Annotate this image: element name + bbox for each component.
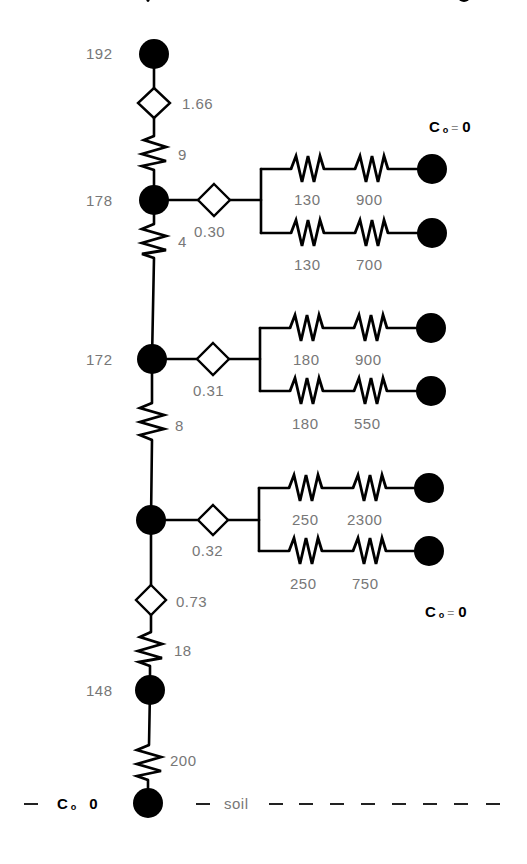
boundary-value: 0 — [462, 118, 470, 135]
boundary-equals: = — [451, 121, 458, 135]
branch-resistor-label: 180 — [293, 352, 320, 367]
node-label: 148 — [86, 683, 113, 698]
node-label: 172 — [86, 352, 113, 367]
resistor-icon — [291, 220, 324, 246]
soil-dash — [361, 803, 375, 805]
branch-resistor-label: 2300 — [347, 512, 382, 527]
soil-dash — [486, 803, 500, 805]
resistor-icon — [142, 136, 166, 170]
boundary-equals: = — [447, 606, 454, 620]
resistor-icon — [289, 475, 322, 501]
branch-resistor-label: 130 — [294, 192, 321, 207]
node-label: 192 — [86, 46, 113, 61]
resistor-icon — [354, 378, 387, 404]
boundary-subscript: o — [71, 802, 77, 812]
trunk-node — [135, 675, 165, 705]
soil-dash — [330, 803, 344, 805]
resistor-icon — [290, 315, 323, 341]
boundary-label-top: Co=0 — [429, 119, 471, 134]
resistor-icon — [354, 315, 387, 341]
valve-label: 1.66 — [182, 96, 213, 111]
leaf-node — [417, 154, 447, 184]
network-diagram: 192 178 172 148 1.66 9 4 8 0.73 18 200 0… — [0, 0, 527, 864]
branch-resistor-label: 250 — [290, 576, 317, 591]
resistor-icon — [355, 156, 388, 182]
resistor-icon — [138, 632, 162, 666]
leaf-node — [417, 218, 447, 248]
resistor-icon — [142, 224, 166, 258]
resistor-label: 4 — [178, 234, 187, 249]
soil-dash — [299, 803, 313, 805]
boundary-subscript: o — [443, 125, 449, 135]
wire — [152, 258, 154, 359]
branch-resistor-label: 750 — [352, 576, 379, 591]
valve-label: 0.73 — [176, 594, 207, 609]
resistor-icon — [289, 538, 322, 564]
boundary-symbol: C — [429, 118, 440, 135]
resistor-icon — [353, 538, 386, 564]
resistor-label: 9 — [178, 147, 187, 162]
soil-dash — [269, 803, 283, 805]
trunk-node — [136, 505, 166, 535]
branch-valve-label: 0.31 — [193, 383, 224, 398]
cropped-heading-fragment — [0, 0, 527, 4]
branch-resistor-label: 550 — [354, 416, 381, 431]
resistor-label: 18 — [174, 643, 192, 658]
branch-resistor-label: 250 — [292, 512, 319, 527]
branch-resistor-label: 180 — [292, 416, 319, 431]
resistor-icon — [290, 378, 323, 404]
boundary-value: 0 — [89, 795, 97, 812]
valve-icon — [138, 88, 170, 118]
boundary-symbol: C — [57, 795, 68, 812]
soil-dash — [454, 803, 468, 805]
valve-icon — [136, 585, 166, 615]
branch-resistor-label: 900 — [355, 352, 382, 367]
branch-valve-label: 0.32 — [192, 543, 223, 558]
soil-dash — [24, 803, 38, 805]
leaf-node — [416, 313, 446, 343]
resistor-icon — [140, 403, 164, 440]
boundary-subscript: o — [439, 610, 445, 620]
valve-icon — [198, 184, 230, 216]
resistor-icon — [137, 745, 161, 780]
resistor-label: 200 — [170, 753, 197, 768]
trunk-node — [139, 39, 169, 69]
soil-dash — [392, 803, 406, 805]
trunk-node — [139, 185, 169, 215]
node-label: 178 — [86, 193, 113, 208]
soil-dash — [423, 803, 437, 805]
boundary-label-bottom: Co=0 — [425, 604, 467, 619]
branch-resistor-label: 130 — [294, 257, 321, 272]
leaf-node — [414, 473, 444, 503]
resistor-icon — [353, 475, 386, 501]
soil-node — [133, 788, 163, 818]
branch-valve-label: 0.30 — [194, 224, 225, 239]
leaf-node — [414, 536, 444, 566]
resistor-icon — [291, 156, 324, 182]
boundary-symbol: C — [425, 603, 436, 620]
resistor-label: 8 — [175, 418, 184, 433]
valve-icon — [198, 505, 228, 535]
valve-icon — [197, 343, 229, 375]
soil-boundary-label: Co0 — [57, 796, 98, 811]
trunk-node — [137, 344, 167, 374]
leaf-node — [416, 376, 446, 406]
resistor-icon — [355, 220, 388, 246]
soil-label: soil — [224, 796, 249, 811]
branch-resistor-label: 900 — [356, 192, 383, 207]
branch-resistor-label: 700 — [356, 257, 383, 272]
boundary-value: 0 — [458, 603, 466, 620]
soil-dash — [196, 803, 210, 805]
